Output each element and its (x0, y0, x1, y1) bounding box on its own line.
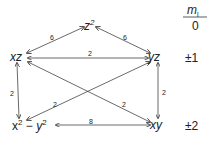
node-yz: yz (148, 51, 160, 63)
node-x2y2-ysup: 2 (42, 118, 46, 127)
weight-x2y2-xy: 8 (89, 118, 93, 125)
edge-xz-z2 (27, 27, 84, 53)
ml-header-m: m (187, 3, 197, 17)
ml-row-2: ±2 (185, 120, 198, 132)
weight-xz-x2y2: 2 (10, 90, 14, 97)
edge-xz-x2y2 (17, 63, 19, 118)
weight-xz-yz: 2 (88, 50, 92, 57)
ml-row-0: 0 (192, 20, 199, 32)
weight-z2-yz: 6 (123, 34, 127, 41)
ml-header-sub: l (197, 11, 199, 18)
weight-yz-xy: 2 (162, 89, 166, 96)
weight-xz-z2: 6 (50, 34, 54, 41)
node-xz: xz (10, 51, 22, 63)
weight-xz-xy: 2 (122, 101, 126, 108)
ml-row-1: ±1 (185, 52, 198, 64)
node-x2y2-minus: − (22, 119, 36, 133)
node-z2: z2 (84, 19, 94, 32)
weight-yz-x2y2: 2 (53, 101, 57, 108)
ml-header: ml (187, 4, 199, 18)
node-z2-sup: 2 (90, 18, 94, 27)
node-x2y2: x2 − y2 (12, 119, 47, 132)
node-xy: xy (150, 119, 162, 131)
